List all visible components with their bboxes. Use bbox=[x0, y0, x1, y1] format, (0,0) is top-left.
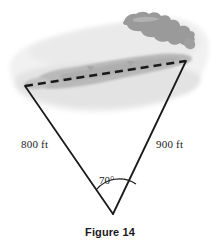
figure-caption: Figure 14 bbox=[0, 226, 220, 238]
figure-container: 800 ft 900 ft 70° Figure 14 bbox=[0, 0, 220, 249]
figure-graphic bbox=[0, 0, 220, 249]
angle-measure-label: 70° bbox=[99, 174, 114, 186]
left-side-length-label: 800 ft bbox=[21, 138, 48, 150]
right-side-length-label: 900 ft bbox=[156, 138, 183, 150]
